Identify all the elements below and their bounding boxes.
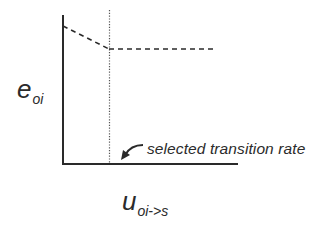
y-axis-symbol: e [17,74,31,104]
selected-transition-rate-annotation: selected transition rate [147,141,305,157]
x-axis-label: uoi->s [122,188,168,214]
curved-arrow-icon [121,145,143,160]
dashed-curve-sloped-segment [63,26,109,49]
x-axis-subscript: oi->s [137,203,168,219]
x-axis-symbol: u [122,186,136,216]
y-axis-label: eoi [17,76,43,102]
y-axis-subscript: oi [32,91,43,107]
